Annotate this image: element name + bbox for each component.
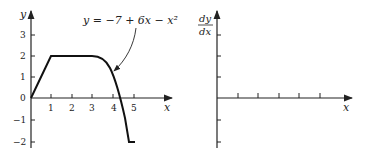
y-tick-2: 2 <box>20 51 26 61</box>
x-tick-5: 5 <box>131 103 137 113</box>
y-tick-neg2: −2 <box>13 137 26 147</box>
y-tick-1: 1 <box>20 72 26 82</box>
y-tick-3: 3 <box>20 30 26 40</box>
right-x-label: x <box>343 101 350 114</box>
right-graph: dy dx x <box>198 11 352 148</box>
left-graph: y x 3 2 1 0 −1 −2 1 2 3 4 5 y = −7 + 6x … <box>13 8 178 148</box>
dy-label: dy <box>199 13 211 24</box>
y-tick-neg1: −1 <box>13 115 26 125</box>
x-tick-2: 2 <box>69 103 75 113</box>
x-tick-4: 4 <box>111 103 117 113</box>
function-curve <box>31 56 135 142</box>
dx-label: dx <box>199 26 211 37</box>
x-tick-1: 1 <box>48 103 54 113</box>
left-y-label: y <box>19 8 27 21</box>
curve-label: y = −7 + 6x − x² <box>82 14 178 27</box>
left-x-label: x <box>164 101 171 114</box>
x-tick-3: 3 <box>89 103 95 113</box>
right-x-ticks <box>238 93 320 98</box>
curve-pointer-arrow <box>114 28 136 71</box>
figure: y x 3 2 1 0 −1 −2 1 2 3 4 5 y = −7 + 6x … <box>0 0 369 162</box>
y-tick-0: 0 <box>20 93 26 103</box>
